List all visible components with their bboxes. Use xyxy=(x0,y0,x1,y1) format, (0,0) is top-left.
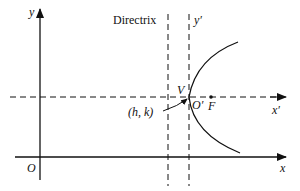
focus-label: F xyxy=(208,100,215,112)
diagram-canvas: y Directrix y′ V O′ F x′ (h, k) O x xyxy=(0,0,300,191)
x-prime-label: x′ xyxy=(272,104,280,116)
vertex-label: V xyxy=(177,84,184,96)
vertex-pointer-arrow xyxy=(163,99,187,111)
x-axis-label: x xyxy=(280,162,285,174)
y-prime-label: y′ xyxy=(194,14,202,26)
diagram-graphics xyxy=(0,0,300,191)
vertex-coords-label: (h, k) xyxy=(128,106,153,118)
y-axis-label: y xyxy=(29,6,34,18)
origin-label: O xyxy=(27,162,36,174)
new-origin-label: O′ xyxy=(192,99,203,111)
directrix-label: Directrix xyxy=(113,14,156,26)
